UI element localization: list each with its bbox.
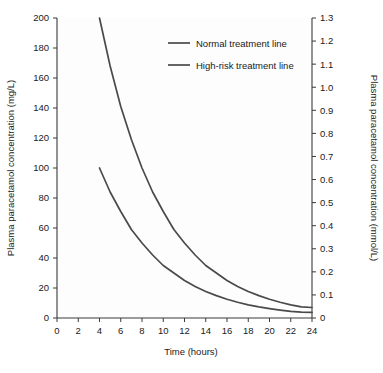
x-tick-label-6: 6 — [118, 325, 123, 336]
y-left-tick-label-160: 160 — [33, 72, 49, 83]
y-axis-right-title: Plasma paracetamol concentration (mmol/L… — [369, 75, 380, 261]
x-tick-label-22: 22 — [285, 325, 296, 336]
y-left-tick-label-100: 100 — [33, 162, 49, 173]
y-left-tick-label-180: 180 — [33, 42, 49, 53]
y-right-tick-label-0.5: 0.5 — [320, 197, 333, 208]
y-left-tick-label-200: 200 — [33, 12, 49, 23]
y-axis-right-ticks — [312, 18, 316, 318]
x-tick-label-20: 20 — [264, 325, 275, 336]
y-right-tick-label-0.8: 0.8 — [320, 128, 333, 139]
paracetamol-nomogram-chart: 024681012141618202224 020406080100120140… — [0, 0, 383, 373]
y-right-tick-label-0.3: 0.3 — [320, 243, 333, 254]
x-tick-label-0: 0 — [54, 325, 59, 336]
y-axis-left-tick-labels: 020406080100120140160180200 — [33, 12, 49, 323]
x-axis-tick-labels: 024681012141618202224 — [54, 325, 317, 336]
legend-label-high-risk-treatment-line: High-risk treatment line — [196, 60, 294, 71]
y-right-tick-label-0.9: 0.9 — [320, 105, 333, 116]
y-left-tick-label-20: 20 — [38, 282, 49, 293]
y-right-tick-label-0: 0 — [320, 312, 325, 323]
y-right-tick-label-0.4: 0.4 — [320, 220, 333, 231]
legend-label-normal-treatment-line: Normal treatment line — [196, 38, 287, 49]
y-right-tick-label-1.0: 1.0 — [320, 82, 333, 93]
y-right-tick-label-0.2: 0.2 — [320, 266, 333, 277]
x-tick-label-18: 18 — [243, 325, 254, 336]
y-right-tick-label-1.1: 1.1 — [320, 59, 333, 70]
y-axis-right-tick-labels: 00.10.20.30.40.50.60.70.80.91.01.11.21.3 — [320, 12, 333, 323]
x-tick-label-4: 4 — [97, 325, 102, 336]
y-axis-left-title: Plasma paracetamol concentration (mg/L) — [5, 80, 16, 256]
x-tick-label-2: 2 — [76, 325, 81, 336]
y-right-tick-label-1.3: 1.3 — [320, 12, 333, 23]
x-tick-label-10: 10 — [158, 325, 169, 336]
x-axis-title: Time (hours) — [164, 346, 218, 357]
y-left-tick-label-120: 120 — [33, 132, 49, 143]
y-left-tick-label-140: 140 — [33, 102, 49, 113]
x-tick-label-12: 12 — [179, 325, 190, 336]
chart-container: 024681012141618202224 020406080100120140… — [0, 0, 383, 373]
y-right-tick-label-0.1: 0.1 — [320, 289, 333, 300]
y-left-tick-label-60: 60 — [38, 222, 49, 233]
x-tick-label-24: 24 — [307, 325, 318, 336]
x-tick-label-8: 8 — [139, 325, 144, 336]
y-left-tick-label-0: 0 — [44, 312, 49, 323]
y-left-tick-label-40: 40 — [38, 252, 49, 263]
x-axis-ticks — [57, 318, 312, 322]
x-tick-label-14: 14 — [200, 325, 211, 336]
y-right-tick-label-0.7: 0.7 — [320, 151, 333, 162]
y-axis-left-ticks — [53, 18, 57, 318]
y-right-tick-label-0.6: 0.6 — [320, 174, 333, 185]
y-left-tick-label-80: 80 — [38, 192, 49, 203]
x-tick-label-16: 16 — [222, 325, 233, 336]
y-right-tick-label-1.2: 1.2 — [320, 35, 333, 46]
